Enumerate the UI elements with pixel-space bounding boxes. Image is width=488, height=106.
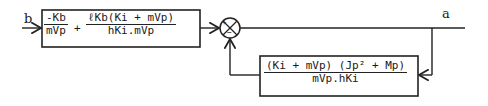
junction-plus-sign: + [222,19,226,27]
junction-minus-sign: − [227,28,232,37]
input-label: b [24,11,32,26]
block-diagram-lines [0,0,488,106]
forward-term2-numerator: ℓKb(Ki + mVp) [86,12,176,24]
forward-term2-fraction: ℓKb(Ki + mVp) hKi.mVp [86,12,176,37]
feedback-denominator: mVp.hKi [310,73,360,85]
forward-plus-operator: + [74,22,81,35]
forward-term1-fraction: -Kb mVp [44,12,68,37]
forward-term2-denominator: hKi.mVp [106,25,156,37]
feedback-numerator: (Ki + mVp) (Jp² + Mp) [264,60,407,72]
feedback-fraction: (Ki + mVp) (Jp² + Mp) mVp.hKi [264,60,407,85]
forward-term1-denominator: mVp [44,25,68,37]
forward-term1-numerator: -Kb [44,12,68,24]
output-label: a [442,6,450,21]
